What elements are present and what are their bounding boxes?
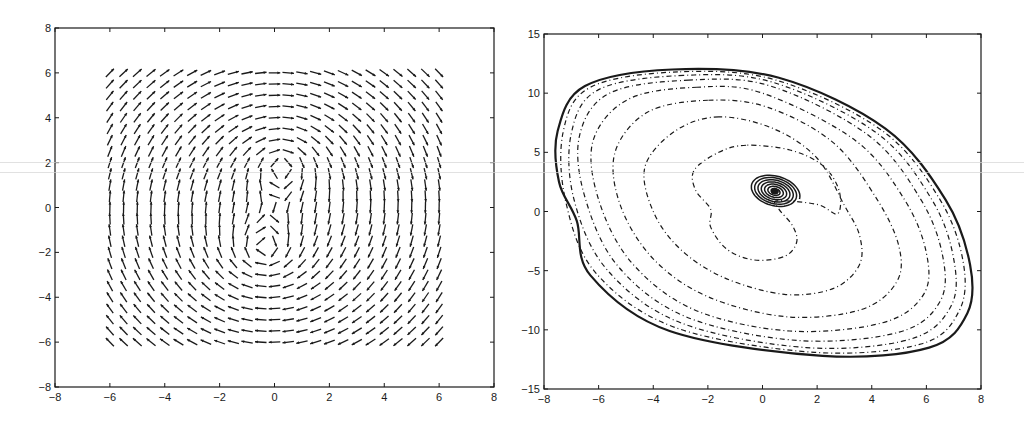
quiver-arrowhead — [269, 307, 272, 310]
quiver-arrowhead — [277, 116, 280, 119]
quiver-arrowhead — [205, 213, 208, 216]
quiver-x-tick-label: −4 — [158, 391, 171, 403]
contour-x-tick-label: 6 — [923, 393, 929, 405]
quiver-arrowhead — [314, 188, 317, 191]
contour-line-8 — [555, 69, 972, 357]
contour-x-tick-label: 8 — [978, 393, 984, 405]
quiver-arrowhead — [291, 72, 294, 75]
quiver-arrowhead — [437, 255, 440, 258]
quiver-y-tick-label: −4 — [38, 291, 51, 303]
quiver-arrowhead — [163, 213, 166, 216]
quiver-arrowhead — [382, 243, 385, 246]
spiral-core — [771, 188, 779, 194]
quiver-arrowhead — [291, 83, 294, 86]
quiver-arrowhead — [242, 284, 245, 287]
quiver-y-tick-label: −8 — [38, 381, 51, 393]
quiver-arrowhead — [411, 165, 414, 168]
quiver-arrowhead — [369, 199, 372, 202]
contour-x-tick-label: −4 — [647, 393, 660, 405]
quiver-arrowhead — [109, 191, 112, 194]
center-spiral — [751, 175, 800, 206]
quiver-arrowhead — [277, 71, 280, 74]
quiver-arrowhead — [328, 199, 331, 202]
quiver-x-tick-label: 4 — [381, 391, 387, 403]
quiver-arrowhead — [277, 83, 280, 86]
quiver-arrowhead — [410, 199, 413, 202]
quiver-arrowhead — [291, 94, 294, 97]
contour-line-3 — [613, 100, 901, 317]
quiver-arrowhead — [355, 199, 358, 202]
contour-line-2 — [644, 117, 862, 295]
quiver-arrowhead — [269, 330, 272, 333]
quiver-y-tick-label: 6 — [45, 67, 51, 79]
contour-line-6 — [569, 75, 956, 349]
quiver-arrowhead — [300, 177, 303, 180]
contour-y-tick-label: −5 — [527, 265, 540, 277]
quiver-arrowhead — [136, 202, 139, 205]
quiver-x-tick-label: −6 — [104, 391, 117, 403]
contour-y-tick-label: −10 — [521, 324, 540, 336]
quiver-arrowhead — [255, 318, 258, 321]
quiver-arrowhead — [423, 255, 426, 258]
quiver-arrowhead — [149, 247, 152, 250]
quiver-arrowhead — [296, 308, 299, 311]
quiver-arrowhead — [383, 210, 386, 213]
contour-y-tick-label: 15 — [528, 28, 540, 40]
contour-line-5 — [578, 79, 946, 341]
quiver-arrowhead — [269, 341, 272, 344]
quiver-arrowhead — [236, 82, 239, 85]
contour-y-tick-label: −15 — [521, 383, 540, 395]
scan-artifact-line — [0, 162, 1024, 163]
contour-x-tick-label: 2 — [814, 393, 820, 405]
quiver-arrowhead — [218, 213, 221, 216]
quiver-arrowhead — [269, 296, 272, 299]
quiver-y-tick-label: −2 — [38, 246, 51, 258]
contour-plot: −8−6−4−202468 151050−5−10−15 — [521, 28, 984, 405]
scan-artifact-line — [0, 172, 1024, 173]
quiver-arrowhead — [328, 188, 331, 191]
contour-y-tick-label: 0 — [534, 206, 540, 218]
quiver-arrowhead — [318, 95, 321, 98]
quiver-plot: −8−6−4−202468 86420−2−4−6−8 — [38, 22, 497, 403]
quiver-arrowhead — [369, 210, 372, 213]
quiver-arrowhead — [228, 317, 231, 320]
quiver-x-tick-label: 6 — [436, 391, 442, 403]
quiver-arrowhead — [260, 168, 263, 171]
quiver-y-tick-label: 0 — [45, 202, 51, 214]
quiver-arrowhead — [109, 202, 112, 205]
quiver-y-tick-label: 4 — [45, 112, 51, 124]
quiver-arrowhead — [300, 199, 303, 202]
quiver-arrowhead — [232, 235, 235, 238]
quiver-arrowhead — [218, 224, 221, 227]
quiver-arrowhead — [396, 210, 399, 213]
quiver-arrowhead — [342, 199, 345, 202]
quiver-arrowhead — [123, 157, 126, 160]
quiver-y-tick-label: −6 — [38, 336, 51, 348]
quiver-arrowhead — [424, 199, 427, 202]
quiver-arrowhead — [108, 213, 111, 216]
quiver-arrowhead — [177, 202, 180, 205]
quiver-arrowhead — [269, 318, 272, 321]
quiver-arrowhead — [438, 199, 441, 202]
contour-x-tick-label: 4 — [869, 393, 875, 405]
quiver-arrowhead — [398, 165, 401, 168]
quiver-arrowhead — [277, 149, 280, 152]
quiver-arrowhead — [397, 199, 400, 202]
contour-x-tick-label: −2 — [702, 393, 715, 405]
quiver-arrowhead — [150, 202, 153, 205]
quiver-arrowhead — [255, 296, 258, 299]
quiver-arrowhead — [332, 73, 335, 76]
figure-canvas: −8−6−4−202468 86420−2−4−6−8 −8−6−4−20246… — [0, 0, 1024, 430]
contour-x-tick-label: −6 — [592, 393, 605, 405]
contour-x-tick-label: 0 — [759, 393, 765, 405]
quiver-arrowhead — [355, 210, 358, 213]
quiver-arrowhead — [191, 213, 194, 216]
quiver-arrowhead — [163, 202, 166, 205]
quiver-arrowhead — [135, 247, 138, 250]
quiver-arrowhead — [437, 221, 440, 224]
quiver-arrowhead — [283, 286, 286, 289]
quiver-arrowhead — [249, 104, 252, 107]
contour-plot-frame — [544, 34, 981, 389]
quiver-arrowhead — [291, 151, 294, 154]
quiver-arrowhead — [287, 222, 290, 225]
